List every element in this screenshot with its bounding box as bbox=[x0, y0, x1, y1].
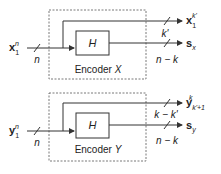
encoder-x-output1-width-label: k' bbox=[162, 28, 170, 39]
encoder-x-h-label: H bbox=[89, 37, 97, 49]
encoder-x-input-label: x1n bbox=[9, 40, 19, 56]
encoder-x-output2-width-label: n − k bbox=[156, 54, 179, 65]
encoder-y-output2-width-label: n − k bbox=[156, 135, 179, 146]
encoder-diagram: H x1n n Encoder X x1k' k' sx n − k H y1n bbox=[0, 0, 221, 174]
encoder-x-caption: Encoder X bbox=[75, 64, 122, 75]
encoder-y-caption: Encoder Y bbox=[75, 144, 123, 155]
encoder-y-output1-width-label: k − k' bbox=[154, 109, 178, 120]
encoder-y-output1-label: yk'+1k bbox=[186, 94, 205, 111]
encoder-x-input-width-label: n bbox=[34, 54, 40, 65]
encoder-x-output1-label: x1k' bbox=[186, 12, 198, 29]
encoder-y-input-label: y1n bbox=[9, 123, 19, 139]
diagram-svg: H x1n n Encoder X x1k' k' sx n − k H y1n bbox=[0, 0, 221, 174]
encoder-y-h-label: H bbox=[89, 119, 97, 131]
encoder-y-output2-label: sy bbox=[186, 119, 196, 134]
encoder-x-group: H x1n n Encoder X x1k' k' sx n − k bbox=[9, 10, 198, 79]
encoder-x-output2-label: sx bbox=[186, 37, 196, 51]
encoder-y-group: H y1n n Encoder Y yk'+1k k − k' sy n − k bbox=[9, 93, 205, 161]
encoder-y-input-width-label: n bbox=[34, 137, 40, 148]
